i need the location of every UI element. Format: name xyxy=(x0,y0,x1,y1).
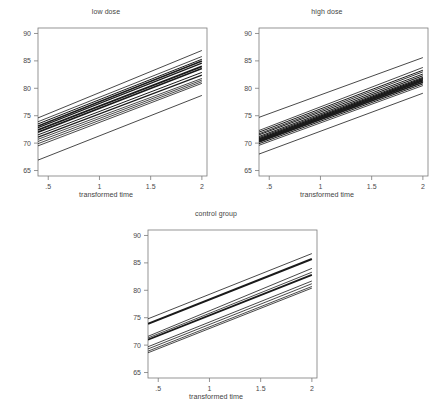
series-line xyxy=(148,272,312,338)
series-line xyxy=(148,288,312,353)
y-tick-label: 70 xyxy=(133,342,141,349)
y-tick-label: 65 xyxy=(133,369,141,376)
xaxis-label-low-dose: transformed time xyxy=(0,190,212,199)
plot-area-low-dose: 657075808590.511.52 xyxy=(0,8,212,208)
y-tick-label: 80 xyxy=(244,85,252,92)
figure-panel-grid: low dose 657075808590.511.52 transformed… xyxy=(0,0,442,414)
plot-svg-control-group: 657075808590.511.52 xyxy=(110,210,322,406)
series-line xyxy=(38,82,202,144)
x-tick-label: 1.5 xyxy=(146,183,156,190)
plot-svg-high-dose: 657075808590.511.52 xyxy=(221,8,433,204)
series-line xyxy=(38,78,202,139)
x-tick-label: 1 xyxy=(98,183,102,190)
y-tick-label: 65 xyxy=(23,167,31,174)
y-tick-label: 90 xyxy=(133,232,141,239)
y-tick-label: 80 xyxy=(23,85,31,92)
series-line xyxy=(259,84,423,144)
series-line xyxy=(148,254,312,319)
y-tick-label: 70 xyxy=(23,140,31,147)
series-line xyxy=(38,66,202,130)
series-line xyxy=(259,70,423,132)
plot-area-control-group: 657075808590.511.52 xyxy=(110,210,322,410)
x-tick-label: 1 xyxy=(319,183,323,190)
y-tick-label: 80 xyxy=(133,287,141,294)
series-line xyxy=(148,268,312,336)
x-tick-label: .5 xyxy=(266,183,272,190)
series-line xyxy=(259,82,423,142)
series-line xyxy=(148,286,312,351)
y-tick-label: 90 xyxy=(244,30,252,37)
series-line xyxy=(148,275,312,340)
plot-svg-low-dose: 657075808590.511.52 xyxy=(0,8,212,204)
y-tick-label: 85 xyxy=(133,259,141,266)
y-tick-label: 85 xyxy=(244,57,252,64)
series-line xyxy=(259,74,423,135)
series-line xyxy=(259,86,423,146)
series-line xyxy=(259,77,423,137)
y-tick-label: 90 xyxy=(23,30,31,37)
y-tick-label: 85 xyxy=(23,57,31,64)
y-axis: 657075808590 xyxy=(23,30,38,174)
x-tick-label: 1.5 xyxy=(256,385,266,392)
panel-high-dose: high dose 657075808590.511.52 transforme… xyxy=(221,8,433,204)
x-tick-label: 2 xyxy=(200,183,204,190)
series-line xyxy=(38,61,202,126)
x-tick-label: .5 xyxy=(155,385,161,392)
x-axis: .511.52 xyxy=(155,378,314,392)
series-line xyxy=(38,72,202,134)
y-tick-label: 75 xyxy=(244,112,252,119)
y-axis: 657075808590 xyxy=(244,30,259,174)
series-line xyxy=(38,63,202,128)
plot-frame xyxy=(38,28,207,176)
xaxis-label-control-group: transformed time xyxy=(110,392,322,401)
y-tick-label: 75 xyxy=(23,112,31,119)
series-line xyxy=(259,72,423,134)
x-axis: .511.52 xyxy=(45,176,204,190)
x-tick-label: 2 xyxy=(310,385,314,392)
x-tick-label: 1 xyxy=(208,385,212,392)
x-tick-label: 2 xyxy=(421,183,425,190)
panel-low-dose: low dose 657075808590.511.52 transformed… xyxy=(0,8,212,204)
series-line xyxy=(259,67,423,130)
xaxis-label-high-dose: transformed time xyxy=(221,190,433,199)
series-line xyxy=(38,69,202,133)
series-line xyxy=(259,80,423,140)
x-axis: .511.52 xyxy=(266,176,425,190)
x-tick-label: 1.5 xyxy=(367,183,377,190)
series-group xyxy=(38,50,202,160)
y-axis: 657075808590 xyxy=(133,232,148,376)
y-tick-label: 70 xyxy=(244,140,252,147)
plot-area-high-dose: 657075808590.511.52 xyxy=(221,8,433,208)
series-line xyxy=(259,76,423,137)
series-line xyxy=(259,81,423,141)
series-group xyxy=(259,58,423,154)
y-tick-label: 75 xyxy=(133,314,141,321)
y-tick-label: 65 xyxy=(244,167,252,174)
series-group xyxy=(148,254,312,353)
panel-control-group: control group 657075808590.511.52 transf… xyxy=(110,210,322,406)
x-tick-label: .5 xyxy=(45,183,51,190)
series-line xyxy=(148,284,312,349)
